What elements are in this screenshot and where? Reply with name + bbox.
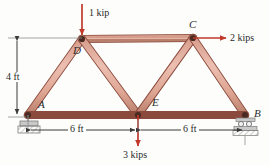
truss-diagram-figure: A D C E B 1 kip 2 kips 3 kips 4 ft 6 ft … xyxy=(0,0,269,165)
load-label-2kips: 2 kips xyxy=(230,33,254,43)
member-C-B-fill xyxy=(193,38,245,115)
joint-D xyxy=(79,36,85,42)
node-label-D: D xyxy=(73,45,81,56)
joint-B xyxy=(242,112,248,118)
dim-label-span-right: 6 ft xyxy=(181,124,199,134)
dim-label-height: 4 ft xyxy=(4,72,22,82)
support-b-roller xyxy=(233,118,258,136)
node-label-A: A xyxy=(38,99,45,110)
truss-members xyxy=(28,38,245,115)
load-label-1kip: 1 kip xyxy=(89,8,109,18)
dim-label-span-left: 6 ft xyxy=(68,124,86,134)
member-E-C-fill xyxy=(138,38,193,115)
truss-diagram-canvas xyxy=(0,0,269,165)
load-label-3kips: 3 kips xyxy=(123,150,147,160)
node-label-B: B xyxy=(254,108,261,119)
node-label-E: E xyxy=(152,97,159,108)
member-D-E-fill xyxy=(82,39,138,115)
member-D-C-fill xyxy=(82,38,193,39)
node-label-C: C xyxy=(189,19,196,30)
